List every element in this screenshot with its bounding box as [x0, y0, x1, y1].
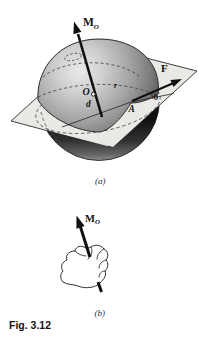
hand-moment-arrowhead: [76, 216, 84, 229]
figure-caption: Fig. 3.12: [9, 319, 51, 331]
angle-label: θ: [154, 92, 159, 102]
part-b-diagram: MO (b): [61, 213, 108, 319]
moment-label-a: MO: [83, 16, 99, 31]
moment-arrowhead: [73, 22, 81, 35]
moment-label-b: MO: [85, 213, 100, 227]
hand-moment-arrow-tail: [98, 282, 102, 292]
part-a-diagram: MO F O d A θ r (a): [11, 16, 197, 186]
figure-canvas: MO F O d A θ r (a) MO (b) Fig. 3.12: [0, 0, 199, 339]
right-hand-icon: [61, 245, 108, 287]
part-b-tag: (b): [95, 308, 106, 318]
origin-label: O: [83, 86, 90, 97]
origin-point: [91, 92, 95, 96]
part-a-tag: (a): [95, 176, 106, 186]
figure-3-12: MO F O d A θ r (a) MO (b) Fig. 3.12: [0, 0, 199, 339]
distance-label: d: [86, 99, 91, 109]
force-label: F: [161, 62, 168, 74]
point-a-label: A: [128, 104, 135, 114]
